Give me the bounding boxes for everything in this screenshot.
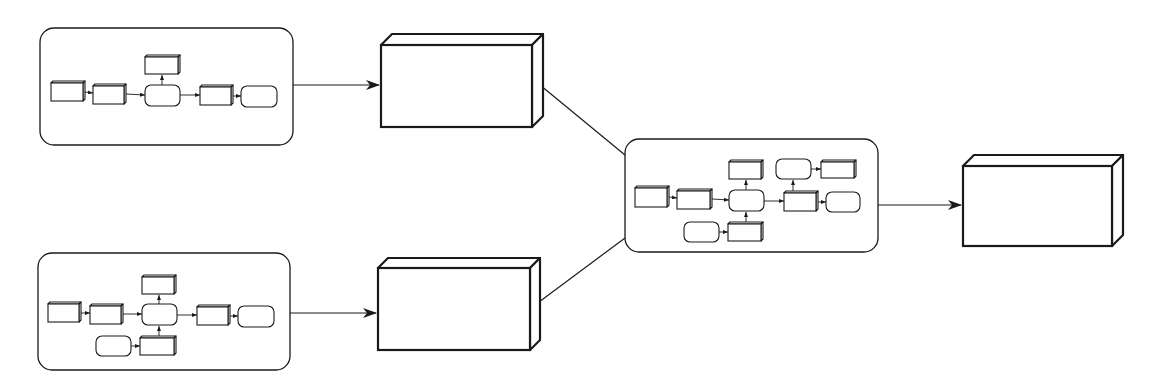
process-box-a1-front-face [51, 83, 83, 101]
process-box-c3-front-face [729, 162, 761, 179]
block-bottom [378, 258, 540, 350]
process-box-a5-front-face [200, 87, 231, 105]
rounded-node-c5 [684, 222, 719, 242]
block-output-top-face [963, 155, 1123, 166]
block-output [963, 155, 1123, 246]
line-bottom-block-to-center [539, 238, 625, 302]
process-box-a1 [51, 81, 85, 101]
rounded-node-b6 [238, 306, 274, 327]
process-box-a2 [93, 84, 126, 104]
process-box-b8 [140, 336, 176, 355]
process-box-b8-front-face [140, 338, 174, 355]
panel-bottom-left [38, 253, 290, 370]
block-bottom-top-face [378, 258, 540, 268]
line-top-block-to-center [540, 85, 625, 155]
process-box-b2 [90, 304, 123, 324]
process-box-c1 [635, 186, 669, 207]
block-bottom-front-face [378, 268, 530, 350]
process-box-c6-front-face [728, 224, 761, 241]
process-box-c1-front-face [635, 188, 667, 207]
panel-top-left [40, 28, 293, 145]
rounded-node-b7 [96, 336, 131, 356]
rounded-node-a6 [241, 86, 277, 107]
diagram-canvas [0, 0, 1158, 392]
rounded-node-c4 [729, 190, 764, 211]
rounded-node-c10 [826, 192, 860, 212]
block-output-side-face [1112, 155, 1123, 246]
block-output-front-face [963, 166, 1112, 246]
rounded-node-c7 [776, 159, 811, 179]
process-box-c2 [677, 189, 712, 209]
rounded-node-b4 [142, 304, 177, 325]
process-box-c9-front-face [784, 193, 816, 211]
block-top-front-face [381, 45, 532, 127]
process-box-c6 [728, 222, 763, 241]
block-top-top-face [381, 34, 543, 45]
process-box-c8-front-face [821, 162, 854, 178]
block-bottom-side-face [530, 258, 540, 350]
process-box-c9 [784, 191, 818, 211]
rounded-node-a4 [145, 85, 180, 106]
block-top-side-face [532, 34, 543, 127]
process-box-c8 [821, 160, 856, 178]
process-box-a5 [200, 85, 233, 105]
process-box-b1-front-face [48, 304, 79, 322]
process-box-b2-front-face [90, 306, 121, 324]
process-box-b3 [142, 275, 176, 294]
process-box-b5-front-face [197, 307, 228, 325]
process-box-c2-front-face [677, 191, 710, 209]
process-box-c3 [729, 160, 763, 179]
block-top [381, 34, 543, 127]
panel-center [625, 139, 878, 252]
process-box-b3-front-face [142, 277, 174, 294]
process-box-a2-front-face [93, 86, 124, 104]
process-box-a3 [145, 55, 180, 74]
process-box-b5 [197, 305, 230, 325]
process-box-a3-front-face [145, 57, 178, 74]
pipeline-diagram [0, 0, 1158, 392]
process-box-b1 [48, 302, 81, 322]
